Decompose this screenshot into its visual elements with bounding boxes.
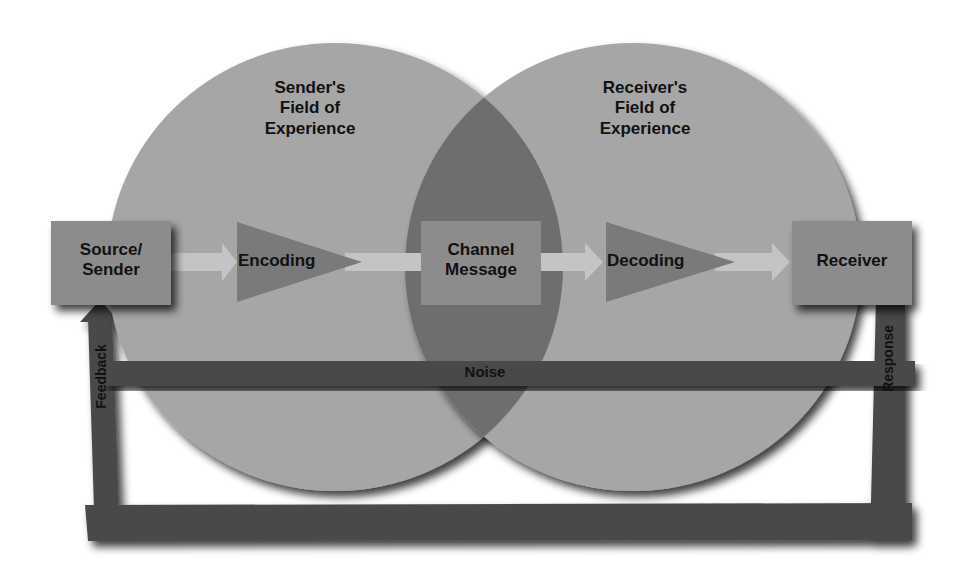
channel-line1: Channel	[421, 240, 541, 260]
decoding-label: Decoding	[607, 251, 707, 271]
noise-label: Noise	[435, 363, 535, 381]
channel-line2: Message	[421, 260, 541, 280]
response-label: Response	[880, 308, 897, 408]
sender-field-label: Sender's Field of Experience	[245, 78, 375, 139]
diagram-canvas	[0, 0, 975, 576]
sender-field-line3: Experience	[245, 119, 375, 139]
source-line2: Sender	[51, 260, 171, 280]
feedback-label: Feedback	[93, 326, 110, 426]
sender-field-line2: Field of	[245, 98, 375, 118]
source-sender-label: Source/ Sender	[51, 240, 171, 281]
receiver-field-line2: Field of	[580, 98, 710, 118]
receiver-field-line1: Receiver's	[580, 78, 710, 98]
receiver-field-label: Receiver's Field of Experience	[580, 78, 710, 139]
receiver-label: Receiver	[792, 251, 912, 271]
communication-diagram: Sender's Field of Experience Receiver's …	[0, 0, 975, 576]
source-line1: Source/	[51, 240, 171, 260]
channel-message-label: Channel Message	[421, 240, 541, 281]
receiver-field-line3: Experience	[580, 119, 710, 139]
sender-field-line1: Sender's	[245, 78, 375, 98]
encoding-label: Encoding	[238, 251, 338, 271]
